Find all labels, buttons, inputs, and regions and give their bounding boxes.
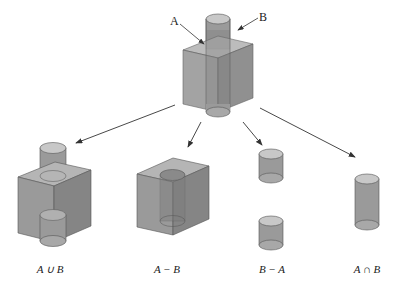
a-minus-b-solid	[137, 158, 209, 235]
arrow-to-a-minus-b	[188, 122, 201, 147]
diagram-canvas	[0, 0, 397, 286]
b-minus-a-solid	[259, 149, 283, 250]
union-solid	[18, 143, 91, 247]
arrow-to-union	[76, 105, 175, 143]
source-solid	[183, 14, 253, 117]
arrow-to-b-minus-a	[243, 122, 262, 145]
label-b: B	[259, 10, 267, 25]
intersection-solid	[355, 174, 379, 230]
label-a-minus-b: A − B	[154, 263, 180, 275]
label-b-pointer	[238, 18, 258, 30]
label-a-pointer	[180, 24, 204, 44]
label-union: A ∪ B	[37, 263, 64, 276]
label-intersection: A ∩ B	[354, 263, 381, 275]
label-b-minus-a: B − A	[259, 263, 285, 275]
label-a: A	[170, 14, 179, 29]
